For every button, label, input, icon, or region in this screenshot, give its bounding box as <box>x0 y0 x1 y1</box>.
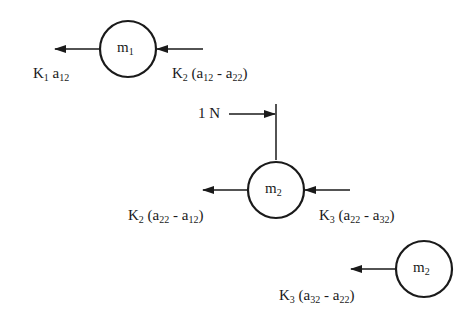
mass-m2-label: m2 <box>265 181 282 198</box>
mass-m1-label: m1 <box>117 40 134 57</box>
force-label-k1: K1 a12 <box>33 66 69 83</box>
force-label-k2-m1: K2 (a12 - a22) <box>172 66 247 83</box>
mass-m3-label: m2 <box>413 260 430 277</box>
force-label-k2-m2: K2 (a22 - a12) <box>128 208 203 225</box>
diagram-canvas <box>0 0 469 330</box>
unit-force-label: 1 N <box>198 106 220 121</box>
force-label-k3-m2: K3 (a22 - a32) <box>319 208 394 225</box>
force-label-k3-m3: K3 (a32 - a22) <box>279 288 354 305</box>
